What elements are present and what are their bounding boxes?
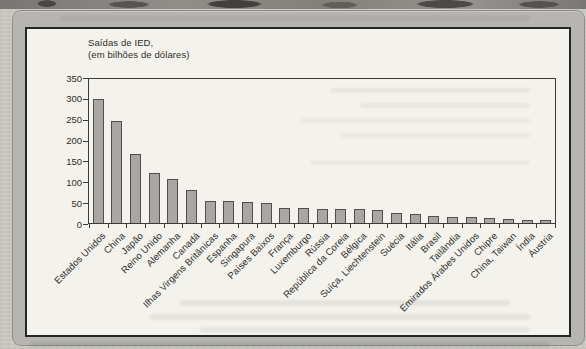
x-axis-tick-mark (89, 224, 90, 228)
bar-emirados-rabes-unidos (466, 217, 477, 223)
bar-estados-unidos (93, 99, 104, 223)
y-axis-tick-label: 0 (52, 219, 82, 230)
chart-title: Saídas de IED, (em bilhões de dólares) (88, 37, 190, 60)
x-axis-tick-mark (331, 224, 332, 228)
bar-r-ssia (317, 209, 328, 223)
x-axis-tick-mark (145, 224, 146, 228)
bar-china-taiwan (503, 219, 514, 223)
y-axis-tick-mark (83, 120, 88, 121)
y-axis-tick-mark (83, 141, 88, 142)
bar-espanha (223, 201, 234, 223)
y-axis-tick-mark (83, 78, 88, 79)
x-axis-tick-mark (425, 224, 426, 228)
scan-dark-band (0, 0, 586, 9)
x-axis-tick-mark (238, 224, 239, 228)
x-axis-tick-mark (294, 224, 295, 228)
bar-it-lia (410, 214, 421, 223)
x-axis-tick-mark (313, 224, 314, 228)
x-axis-tick-mark (499, 224, 500, 228)
y-axis-tick-label: 50 (52, 198, 82, 209)
x-axis-tick-mark (555, 224, 556, 228)
bar-b-lgica (354, 209, 365, 223)
y-axis-tick-label: 200 (52, 135, 82, 146)
bar-chipre (484, 218, 495, 223)
bar-luxemburgo (298, 208, 309, 223)
x-axis-tick-mark (182, 224, 183, 228)
y-axis-tick-mark (83, 99, 88, 100)
x-axis-tick-mark (126, 224, 127, 228)
chart-title-line2: (em bilhões de dólares) (88, 49, 190, 61)
bar-su-cia (391, 213, 402, 223)
bar-ilhas-virgens-brit-nicas (205, 201, 216, 223)
bar-tail-ndia (447, 217, 458, 223)
bar--ndia (522, 220, 533, 223)
x-axis-tick-mark (164, 224, 165, 228)
y-axis-tick-mark (83, 182, 88, 183)
bar-brasil (428, 216, 439, 223)
bar--ustria (540, 220, 551, 223)
bar-singapura (242, 202, 253, 223)
y-axis-tick-label: 150 (52, 156, 82, 167)
bar-canad- (186, 190, 197, 223)
x-axis-tick-mark (369, 224, 370, 228)
bar-reino-unido (149, 173, 160, 223)
x-axis-tick-mark (108, 224, 109, 228)
x-axis-tick-mark (462, 224, 463, 228)
y-axis-tick-label: 100 (52, 177, 82, 188)
x-axis-tick-mark (480, 224, 481, 228)
scanned-page: { "figure": { "title_line1": "Saídas de … (0, 0, 586, 349)
y-axis-tick-mark (83, 161, 88, 162)
x-axis-tick-mark (219, 224, 220, 228)
x-axis-tick-mark (275, 224, 276, 228)
x-axis-tick-mark (350, 224, 351, 228)
y-axis-tick-label: 300 (52, 93, 82, 104)
x-axis-tick-mark (443, 224, 444, 228)
bar-pa-ses-baixos (261, 203, 272, 223)
bar-fran-a (279, 208, 290, 223)
x-axis-tick-mark (257, 224, 258, 228)
y-axis-tick-label: 250 (52, 114, 82, 125)
bar-jap-o (130, 154, 141, 223)
x-axis-tick-mark (406, 224, 407, 228)
bar-su-a-liechtenstein (372, 210, 383, 223)
y-axis-tick-mark (83, 224, 88, 225)
y-axis-tick-label: 350 (52, 73, 82, 84)
x-axis-tick-mark (518, 224, 519, 228)
bar-alemanha (167, 179, 178, 223)
plot-area (88, 78, 556, 224)
x-axis-tick-mark (387, 224, 388, 228)
bar-rep-blica-da-coreia (335, 209, 346, 223)
bar-china (111, 121, 122, 223)
x-axis-tick-mark (201, 224, 202, 228)
y-axis-tick-mark (83, 203, 88, 204)
chart-title-line1: Saídas de IED, (88, 37, 190, 49)
x-axis-tick-mark (536, 224, 537, 228)
